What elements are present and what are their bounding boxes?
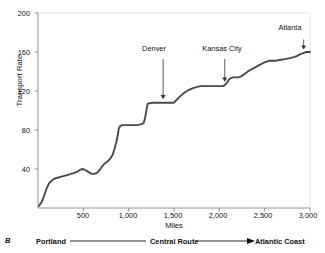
axes-group xyxy=(38,13,310,208)
chart-figure: Transport Rate Miles 200 160 120 80 40 5… xyxy=(0,0,325,253)
chart-canvas xyxy=(0,0,325,253)
footer-arrow-icon xyxy=(247,238,255,244)
series-line-transport-rate xyxy=(39,52,310,206)
annotation-arrows-group xyxy=(161,40,306,100)
footer-rule-group xyxy=(70,238,255,244)
tick-marks-group xyxy=(35,13,311,212)
